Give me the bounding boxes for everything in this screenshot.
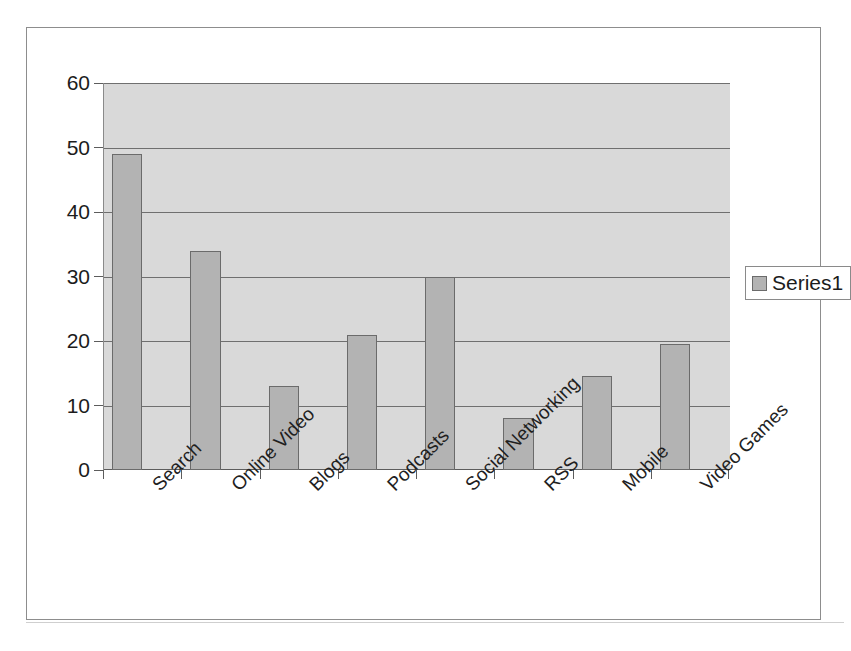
y-tick-mark: [94, 470, 103, 471]
gridline-50: [104, 148, 730, 149]
x-tick-mark: [103, 470, 104, 479]
y-tick-label: 40: [67, 200, 94, 224]
y-axis: 0102030405060: [53, 83, 103, 470]
y-tick-label: 30: [67, 265, 94, 289]
y-tick-label: 60: [67, 71, 94, 95]
y-tick-10: 10: [67, 394, 103, 418]
gridline-40: [104, 212, 730, 213]
x-axis-labels: SearchOnline VideoBlogsPodcastsSocial Ne…: [103, 480, 730, 640]
y-tick-mark: [94, 83, 103, 84]
y-tick-label: 20: [67, 329, 94, 353]
chart-frame: 0102030405060 SearchOnline VideoBlogsPod…: [26, 27, 821, 620]
y-tick-mark: [94, 276, 103, 277]
y-tick-mark: [94, 147, 103, 148]
chart-legend: Series1: [745, 266, 851, 300]
plot-area: [103, 83, 730, 470]
bar-online-video: [190, 251, 220, 470]
y-tick-60: 60: [67, 71, 103, 95]
y-tick-40: 40: [67, 200, 103, 224]
bar-mobile: [582, 376, 612, 470]
scan-artifact-line: [26, 622, 844, 623]
bar-search: [112, 154, 142, 470]
y-tick-label: 0: [78, 458, 94, 482]
y-tick-mark: [94, 212, 103, 213]
y-tick-mark: [94, 341, 103, 342]
bar-podcasts: [347, 335, 377, 470]
y-tick-30: 30: [67, 265, 103, 289]
legend-swatch-series1: [752, 276, 767, 291]
gridline-60: [104, 83, 730, 84]
legend-label-series1: Series1: [772, 271, 843, 295]
y-tick-0: 0: [78, 458, 103, 482]
y-tick-mark: [94, 405, 103, 406]
y-tick-20: 20: [67, 329, 103, 353]
y-tick-label: 10: [67, 394, 94, 418]
y-tick-50: 50: [67, 136, 103, 160]
y-tick-label: 50: [67, 136, 94, 160]
